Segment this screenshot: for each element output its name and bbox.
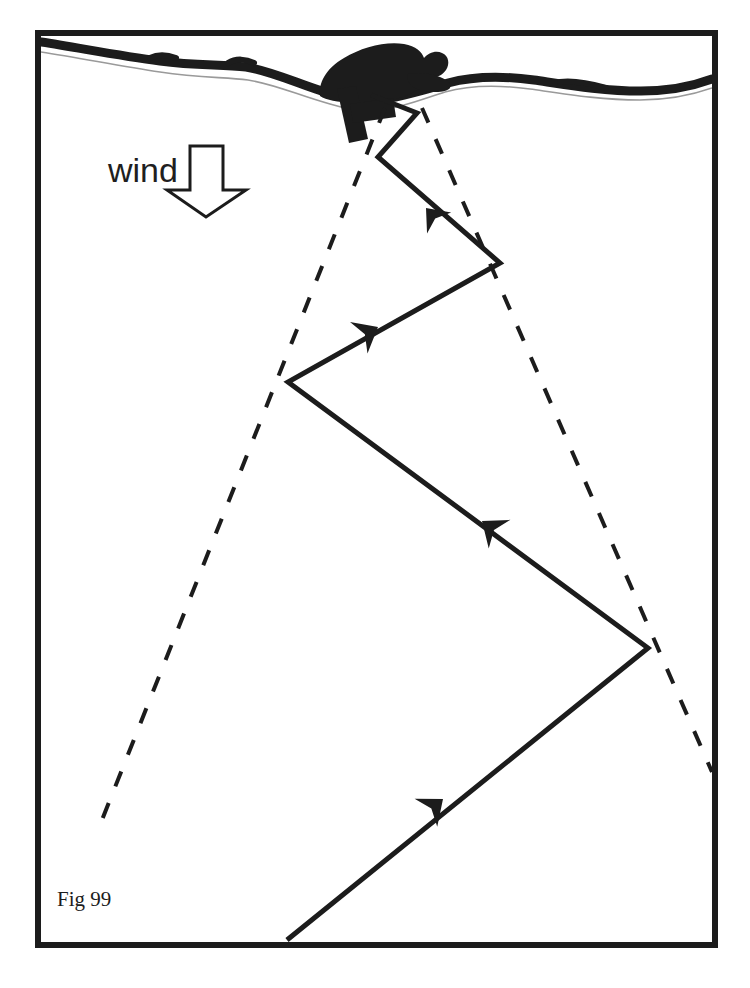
- wind-label: wind: [107, 151, 178, 189]
- shore-bump: [150, 55, 176, 58]
- figure-page: SAILING IN A FORCE FIVE BREEZE: [0, 0, 750, 988]
- page-background: [0, 0, 750, 988]
- figure-caption: Fig 99: [57, 887, 111, 911]
- figure-illustration: wind Fig 99: [0, 0, 750, 988]
